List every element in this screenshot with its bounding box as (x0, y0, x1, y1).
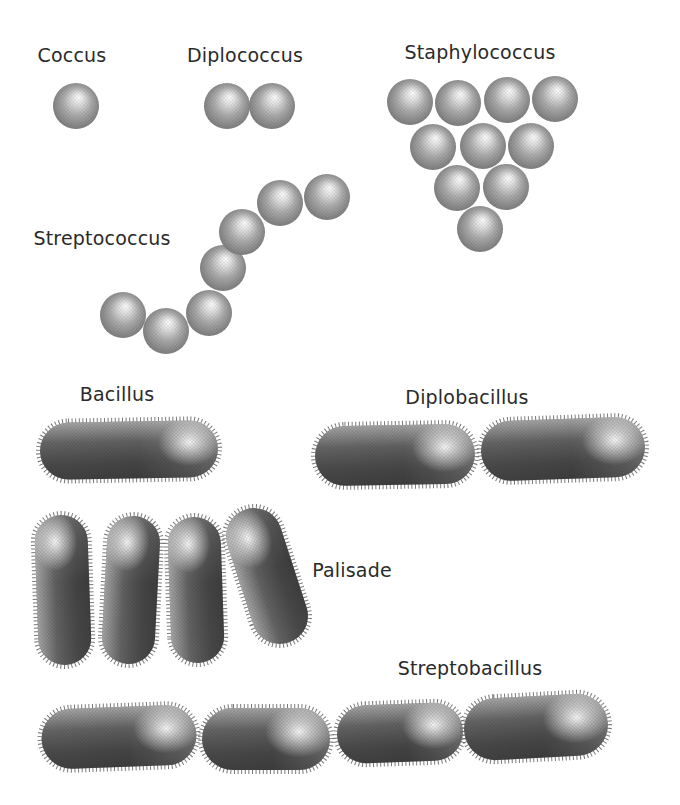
diplococcus-group (204, 83, 295, 129)
cells-layer (32, 76, 649, 771)
label-diplobacillus: Diplobacillus (405, 386, 528, 408)
label-streptococcus: Streptococcus (33, 227, 170, 249)
streptobacillus-group (39, 690, 612, 771)
label-streptobacillus: Streptobacillus (398, 657, 543, 679)
staphylococcus-cell-texture (457, 206, 503, 252)
staphylococcus-cell-texture (387, 79, 433, 125)
palisade-group (32, 498, 317, 667)
palisade-cell (216, 498, 317, 653)
streptobacillus-cell (39, 702, 200, 771)
diplobacillus-cell (479, 414, 649, 483)
palisade-cell-texture (219, 501, 316, 651)
diplobacillus-cell-texture (480, 416, 646, 482)
staphylococcus-cell-texture (435, 80, 481, 126)
streptobacillus-cell-texture (202, 708, 330, 770)
staphylococcus-cell-texture (483, 164, 529, 210)
label-palisade: Palisade (312, 559, 392, 581)
palisade-cell (165, 513, 226, 665)
bacteria-arrangements-diagram: Coccus Diplococcus Staphylococcus Strept… (0, 0, 680, 805)
palisade-cell-texture (34, 514, 92, 666)
diplobacillus-cell (313, 421, 478, 487)
label-bacillus: Bacillus (80, 383, 155, 405)
staphylococcus-cell-texture (508, 123, 554, 169)
streptococcus-cell-texture (304, 174, 350, 220)
streptococcus-cell-texture (143, 308, 189, 354)
streptococcus-cell-texture (257, 180, 303, 226)
diplococcus-cell-texture (249, 83, 295, 129)
coccus-cell-texture (53, 83, 99, 129)
diplococcus-cell-texture (204, 83, 250, 129)
staphylococcus-cell-texture (460, 123, 506, 169)
streptobacillus-cell (201, 706, 333, 771)
staphylococcus-cell-texture (484, 77, 530, 123)
coccus-group (53, 83, 99, 129)
staphylococcus-cell-texture (410, 124, 456, 170)
palisade-cell (98, 512, 162, 666)
label-coccus: Coccus (38, 44, 107, 66)
streptococcus-cell-texture (186, 290, 232, 336)
streptobacillus-cell-texture (462, 692, 609, 761)
streptobacillus-cell-texture (41, 704, 198, 769)
bacillus-cell-texture (40, 420, 219, 480)
bacillus-group (38, 418, 221, 481)
streptobacillus-cell (461, 690, 612, 763)
streptobacillus-cell (335, 699, 467, 765)
diplobacillus-group (313, 414, 649, 488)
palisade-cell (32, 511, 93, 667)
streptococcus-cell-texture (100, 292, 146, 338)
streptococcus-cell-texture (219, 209, 265, 255)
palisade-cell-texture (101, 515, 162, 666)
palisade-cell-texture (167, 516, 225, 664)
streptococcus-group (100, 174, 350, 354)
label-staphylococcus: Staphylococcus (404, 41, 555, 63)
diplobacillus-cell-texture (314, 424, 475, 487)
staphylococcus-cell-texture (434, 165, 480, 211)
label-diplococcus: Diplococcus (187, 44, 303, 66)
staphylococcus-group (387, 76, 578, 252)
streptobacillus-cell-texture (336, 702, 464, 764)
bacillus-cell (38, 418, 221, 481)
staphylococcus-cell-texture (532, 76, 578, 122)
